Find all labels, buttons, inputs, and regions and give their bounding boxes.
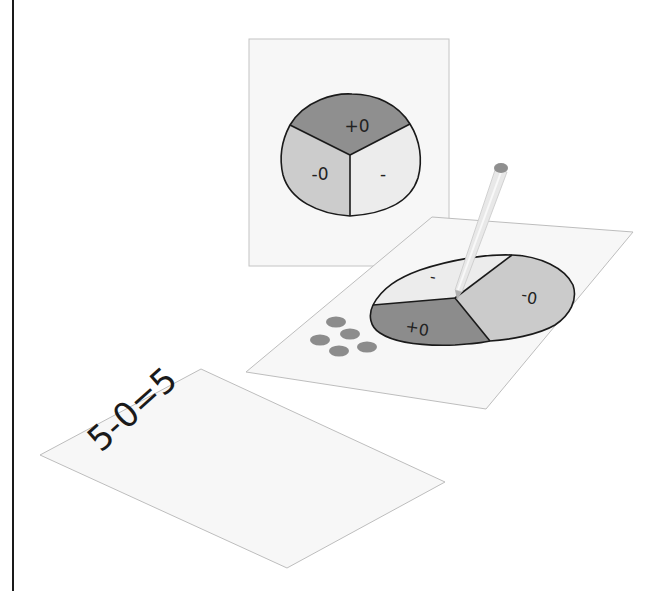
counter-dot: [326, 317, 346, 328]
top-spinner: +0 -0 -: [281, 94, 420, 216]
bottom-card-paper: [40, 369, 445, 568]
left-border-line: [12, 0, 14, 591]
illustration-canvas: +0 -0 - 0+ 0- -: [0, 0, 669, 591]
spinner-label-left: -0: [312, 164, 329, 184]
math-spinner-illustration: +0 -0 - 0+ 0- -: [0, 0, 669, 591]
pencil-eraser: [494, 163, 508, 173]
counter-dot: [357, 342, 377, 353]
spinner-label-dark: 0+: [404, 317, 430, 339]
counter-dot: [310, 335, 330, 346]
spinner-label-medium: 0-: [520, 287, 538, 308]
spinner-label-right: -: [380, 164, 386, 184]
counter-dot: [329, 346, 349, 357]
spinner-label-top: +0: [344, 116, 369, 136]
counter-dot: [340, 329, 360, 340]
